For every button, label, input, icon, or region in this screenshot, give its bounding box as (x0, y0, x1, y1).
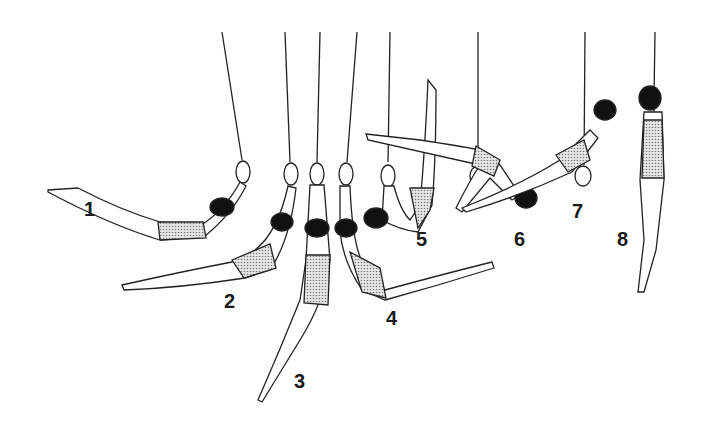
position-label-3: 3 (294, 370, 305, 393)
position-label-7: 7 (572, 200, 583, 223)
position-label-8: 8 (617, 228, 628, 251)
position-label-5: 5 (416, 228, 427, 251)
position-label-4: 4 (386, 307, 397, 330)
position-label-2: 2 (224, 290, 235, 313)
gymnast-figures (0, 0, 707, 436)
rings-illustration: 1 2 3 4 5 6 7 8 (0, 0, 707, 436)
position-label-1: 1 (84, 198, 95, 221)
position-label-6: 6 (514, 228, 525, 251)
